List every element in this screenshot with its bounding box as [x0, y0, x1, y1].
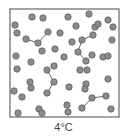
- molecule: [19, 94, 25, 100]
- molecule: [105, 76, 111, 82]
- molecule: [14, 30, 20, 36]
- molecule: [29, 14, 35, 20]
- molecule: [27, 79, 33, 85]
- molecule: [77, 67, 83, 73]
- molecule: [40, 15, 46, 21]
- molecule: [64, 102, 70, 108]
- molecule: [95, 21, 101, 27]
- molecule: [79, 105, 85, 111]
- molecule: [61, 54, 67, 60]
- molecule: [28, 59, 34, 65]
- molecule: [44, 90, 50, 96]
- molecule: [65, 109, 71, 115]
- molecule: [89, 95, 95, 101]
- molecule: [89, 52, 95, 58]
- molecule: [103, 93, 109, 99]
- molecule: [45, 29, 51, 35]
- molecule: [51, 63, 57, 69]
- molecule: [39, 48, 45, 54]
- molecule: [105, 17, 111, 23]
- molecule: [108, 106, 114, 112]
- molecule: [23, 36, 29, 42]
- molecule: [66, 84, 72, 90]
- molecule: [110, 24, 116, 30]
- molecule: [11, 88, 17, 94]
- molecule: [84, 67, 90, 73]
- molecule: [51, 79, 57, 85]
- molecule-diagram: [0, 0, 127, 137]
- molecule: [69, 39, 75, 45]
- molecule: [14, 66, 20, 72]
- molecule: [82, 86, 88, 92]
- molecule: [75, 49, 81, 55]
- molecule: [39, 110, 45, 116]
- molecule: [109, 37, 115, 43]
- molecule: [52, 46, 58, 52]
- molecule: [35, 40, 41, 46]
- molecule: [90, 32, 96, 38]
- molecule: [28, 85, 34, 91]
- molecule: [86, 11, 92, 17]
- molecule: [57, 30, 63, 36]
- molecule: [83, 58, 89, 64]
- temperature-label: 4°C: [0, 121, 127, 133]
- molecule: [105, 53, 111, 59]
- molecule: [65, 14, 71, 20]
- molecule: [15, 110, 21, 116]
- container-box: [10, 9, 119, 117]
- molecule: [13, 53, 19, 59]
- molecule: [79, 37, 85, 43]
- molecule: [73, 23, 79, 29]
- molecule: [44, 67, 50, 73]
- molecule: [12, 22, 18, 28]
